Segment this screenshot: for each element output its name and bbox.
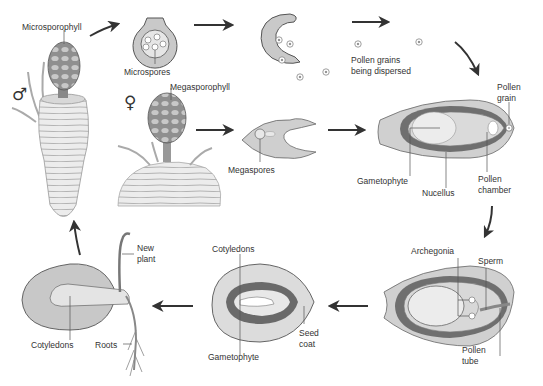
label-pollen-dispersed-1: Pollen grains: [351, 55, 400, 65]
male-symbol: ♂: [12, 86, 27, 103]
life-cycle-diagram: ♂ ♀ Microsporophyll Microspores Megaspor…: [0, 0, 543, 386]
label-pollen-dispersed-2: being dispersed: [351, 66, 411, 76]
label-new-plant-1: New: [137, 243, 154, 253]
label-pollen-grain-2: grain: [497, 93, 516, 103]
label-megasporophyll: Megasporophyll: [170, 82, 230, 92]
label-gametophyte-seed: Gametophyte: [208, 352, 259, 362]
female-symbol: ♀: [124, 94, 136, 111]
label-archegonia: Archegonia: [411, 246, 454, 256]
seedling: [22, 234, 144, 376]
label-pollen-chamber-1: Pollen: [478, 174, 502, 184]
label-roots: Roots: [95, 340, 117, 350]
label-new-plant-2: plant: [137, 254, 155, 264]
label-pollen-tube-1: Pollen: [462, 345, 486, 355]
label-pollen-grain-1: Pollen: [497, 82, 521, 92]
label-pollen-tube-2: tube: [462, 356, 479, 366]
microsporangium: [133, 18, 177, 68]
label-cotyledons-seedling: Cotyledons: [31, 340, 74, 350]
diagram-artwork: [0, 0, 543, 386]
label-sperm: Sperm: [478, 256, 503, 266]
label-seed-coat-2: coat: [299, 339, 315, 349]
label-megaspores: Megaspores: [228, 165, 275, 175]
label-microspores: Microspores: [124, 67, 170, 77]
ovule-fertilization: [384, 258, 514, 356]
label-microsporophyll: Microsporophyll: [22, 22, 82, 32]
label-nucellus: Nucellus: [422, 188, 455, 198]
male-cone-plant: [12, 30, 89, 217]
label-cotyledons-seed: Cotyledons: [212, 244, 255, 254]
label-seed-coat-1: Seed: [299, 328, 319, 338]
label-pollen-chamber-2: chamber: [478, 185, 511, 195]
label-gametophyte-ovule: Gametophyte: [357, 176, 408, 186]
megasporangium: [242, 119, 316, 162]
